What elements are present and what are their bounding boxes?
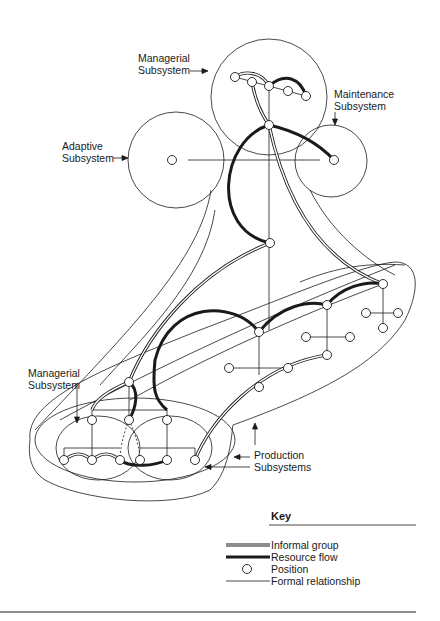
key-item-formal: Formal relationship — [271, 575, 360, 587]
position-node — [330, 156, 339, 165]
position-node — [346, 333, 355, 342]
position-node — [284, 364, 293, 373]
position-node — [323, 351, 332, 360]
inner-lens — [60, 265, 395, 420]
position-node — [248, 78, 257, 87]
position-node — [265, 121, 274, 130]
position-node — [323, 301, 332, 310]
key-item-resource: Resource flow — [271, 551, 338, 563]
label-maintenance: Maintenance Subsystem — [334, 88, 394, 112]
position-node — [302, 92, 311, 101]
production-envelope — [29, 262, 415, 501]
key-symbol-position — [243, 565, 252, 574]
label-adaptive: Adaptive Subsystem — [62, 140, 114, 164]
position-node — [394, 309, 403, 318]
envelope-right — [310, 190, 395, 275]
key-item-informal: Informal group — [271, 539, 339, 551]
position-node — [191, 456, 200, 465]
position-node — [88, 456, 97, 465]
key-item-position: Position — [271, 563, 308, 575]
position-node — [225, 364, 234, 373]
position-node — [379, 280, 388, 289]
position-node — [379, 324, 388, 333]
position-node — [88, 416, 97, 425]
position-node — [231, 73, 240, 82]
label-managerial-top: Managerial Subsystem — [138, 52, 190, 76]
position-node — [125, 378, 134, 387]
position-node — [266, 239, 275, 248]
position-node — [255, 328, 264, 337]
label-managerial-bottom: Managerial Subsystem — [28, 367, 80, 391]
position-node — [60, 456, 69, 465]
position-node — [163, 416, 172, 425]
position-node — [265, 82, 274, 91]
position-node — [163, 456, 172, 465]
envelope-left-2 — [100, 210, 215, 385]
position-node — [125, 416, 134, 425]
position-node — [255, 383, 264, 392]
position-node — [302, 333, 311, 342]
position-node — [136, 456, 145, 465]
key-title: Key — [271, 510, 291, 522]
label-production: Production Subsystems — [254, 449, 311, 473]
position-node — [116, 456, 125, 465]
position-node — [362, 309, 371, 318]
position-node — [168, 156, 177, 165]
position-node — [284, 87, 293, 96]
